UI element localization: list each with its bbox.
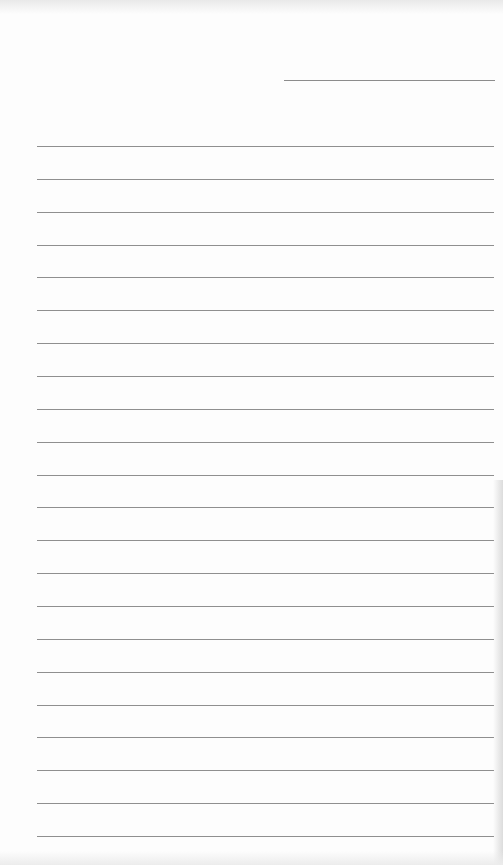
ruled-line [37,310,494,311]
ruled-line [37,245,494,246]
ruled-line [37,343,494,344]
ruled-line [37,573,494,574]
ruled-line [37,442,494,443]
ruled-line [37,475,494,476]
ruled-line [37,376,494,377]
header-date-rule [284,80,495,81]
ruled-line [37,836,494,837]
ruled-line [37,737,494,738]
ruled-line [37,672,494,673]
ruled-line [37,507,494,508]
ruled-line [37,705,494,706]
ruled-line [37,770,494,771]
ruled-line [37,639,494,640]
ruled-line [37,540,494,541]
ruled-line [37,803,494,804]
ruled-line [37,146,494,147]
bottom-edge-shadow [0,851,503,865]
lined-paper-page [0,0,503,865]
ruled-line [37,409,494,410]
ruled-line [37,606,494,607]
ruled-line [37,179,494,180]
ruled-line [37,212,494,213]
ruled-line [37,277,494,278]
right-edge-shadow [493,480,503,865]
top-edge-shadow [0,0,503,14]
